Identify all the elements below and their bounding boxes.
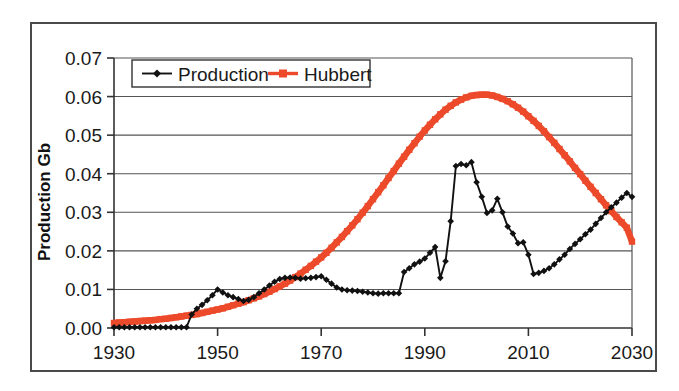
x-tick-label: 1930 <box>93 342 135 363</box>
chart-outer-frame: Production Gb 0.000.010.020.030.040.050.… <box>30 22 657 372</box>
y-axis-tick-marks <box>107 58 114 328</box>
legend-marker-hubbert <box>279 70 287 78</box>
production-data-point <box>499 209 506 216</box>
production-data-point <box>313 274 320 281</box>
production-data-point <box>437 275 444 282</box>
x-axis-tick-marks <box>114 328 632 336</box>
series-production <box>111 159 636 331</box>
y-tick-labels: 0.000.010.020.030.040.050.060.07 <box>65 48 102 339</box>
hubbert-data-point <box>344 228 350 234</box>
y-tick-label: 0.03 <box>65 202 102 223</box>
y-tick-label: 0.06 <box>65 87 102 108</box>
hubbert-data-point <box>587 184 593 190</box>
production-data-point <box>478 194 485 201</box>
production-data-point <box>520 239 527 246</box>
y-tick-label: 0.01 <box>65 279 102 300</box>
production-data-point <box>442 258 449 265</box>
production-data-point <box>183 324 190 331</box>
production-data-point <box>525 251 532 258</box>
hubbert-data-point <box>349 222 355 228</box>
hubbert-data-point <box>370 196 376 202</box>
chart-plot-svg: Production Gb 0.000.010.020.030.040.050.… <box>32 24 655 370</box>
hubbert-data-point <box>567 158 573 164</box>
hubbert-data-point <box>354 216 360 222</box>
hubbert-data-point <box>582 177 588 183</box>
production-data-point <box>494 195 501 202</box>
hubbert-data-point <box>339 234 345 240</box>
hubbert-data-point <box>391 168 397 174</box>
hubbert-data-point <box>406 147 412 153</box>
hubbert-data-point <box>624 225 630 231</box>
hubbert-data-point <box>546 134 552 140</box>
hubbert-data-point <box>375 189 381 195</box>
production-data-point <box>308 275 315 282</box>
hubbert-line <box>114 95 632 323</box>
hubbert-data-point <box>416 133 422 139</box>
production-data-point <box>530 271 537 278</box>
x-tick-label: 2010 <box>507 342 549 363</box>
x-tick-labels: 193019501970199020102030 <box>93 342 653 363</box>
x-tick-label: 1990 <box>404 342 446 363</box>
hubbert-data-point <box>422 127 428 133</box>
hubbert-data-point <box>561 152 567 158</box>
hubbert-data-point <box>572 165 578 171</box>
production-data-point <box>354 288 361 295</box>
hubbert-data-point <box>396 160 402 166</box>
x-tick-label: 1950 <box>196 342 238 363</box>
production-data-point <box>396 290 403 297</box>
production-data-point <box>473 179 480 186</box>
hubbert-data-point <box>359 209 365 215</box>
production-data-point <box>447 218 454 225</box>
hubbert-data-point <box>541 128 547 134</box>
hubbert-data-point <box>365 203 371 209</box>
x-tick-label: 1970 <box>300 342 342 363</box>
hubbert-data-point <box>593 190 599 196</box>
chart-figure: Production Gb 0.000.010.020.030.040.050.… <box>0 0 679 391</box>
hubbert-data-point <box>385 175 391 181</box>
production-data-point <box>365 289 372 296</box>
y-tick-label: 0.05 <box>65 125 102 146</box>
x-tick-label: 2030 <box>611 342 653 363</box>
hubbert-data-point <box>598 196 604 202</box>
y-tick-label: 0.02 <box>65 241 102 262</box>
hubbert-data-point <box>551 140 557 146</box>
hubbert-data-point <box>629 238 635 244</box>
production-line <box>114 162 632 327</box>
y-axis-title: Production Gb <box>35 143 54 261</box>
y-tick-label: 0.00 <box>65 318 102 339</box>
horizontal-gridlines <box>114 58 632 289</box>
hubbert-data-point <box>411 140 417 146</box>
y-tick-label: 0.04 <box>65 164 102 185</box>
legend-label-production: Production <box>178 64 269 85</box>
hubbert-data-point <box>556 146 562 152</box>
y-tick-label: 0.07 <box>65 48 102 69</box>
hubbert-data-point <box>401 154 407 160</box>
legend-label-hubbert: Hubbert <box>304 64 372 85</box>
hubbert-data-point <box>577 171 583 177</box>
hubbert-data-point <box>380 182 386 188</box>
chart-legend: ProductionHubbert <box>132 60 372 87</box>
y-axis-title-text: Production Gb <box>35 143 54 261</box>
